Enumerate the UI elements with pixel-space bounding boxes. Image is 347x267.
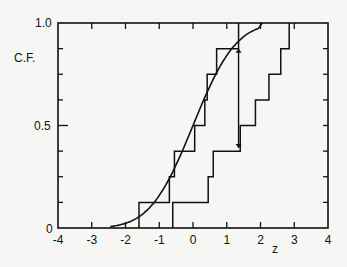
x-tick-label: 0 — [190, 233, 197, 247]
x-tick-labels: -4-3-2-101234 — [53, 233, 332, 247]
x-tick-label: -3 — [86, 233, 97, 247]
y-axis-title: C.F. — [14, 51, 35, 65]
x-tick-label: -1 — [154, 233, 165, 247]
x-tick-label: 4 — [325, 233, 332, 247]
cdf-chart: 0 0.5 1.0 -4-3-2-101234 C.F. z — [0, 0, 347, 267]
x-tick-label: -2 — [120, 233, 131, 247]
normal-cdf-curve — [110, 23, 262, 227]
x-tick-label: -4 — [53, 233, 64, 247]
y-label-half: 0.5 — [34, 119, 51, 133]
ecdf-step-right — [173, 23, 289, 228]
x-tick-label: 3 — [291, 233, 298, 247]
y-tick-labels: 0 0.5 1.0 — [34, 16, 53, 236]
ecdf-step-left — [139, 23, 239, 228]
x-tick-label: 2 — [257, 233, 264, 247]
x-tick-label: 1 — [223, 233, 230, 247]
y-label-one: 1.0 — [35, 16, 52, 30]
x-axis-title: z — [272, 242, 278, 256]
